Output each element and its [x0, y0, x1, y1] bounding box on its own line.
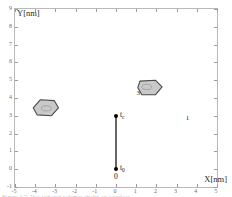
figure-caption: Figure 4.7: Two tethered polymer chains …: [2, 194, 130, 197]
shape-label-1: 1: [186, 115, 190, 122]
x-axis-tick-label: 1: [134, 188, 137, 194]
polymer-shape-3[interactable]: [138, 80, 162, 95]
plot-frame: 13tct00: [14, 8, 218, 188]
y-axis-tick-label: 2: [1, 130, 12, 136]
x-axis-tick-label: 2: [154, 188, 157, 194]
y-axis-tick-label: 0: [1, 165, 12, 171]
x-axis-tick-label: 4: [194, 188, 197, 194]
tether-node-t_c[interactable]: [114, 114, 118, 118]
y-axis-tick-label: -1: [1, 183, 12, 189]
x-axis-tick-label: -3: [52, 188, 57, 194]
y-axis-title: Y[nm]: [17, 9, 40, 18]
x-axis-tick-label: 0: [114, 188, 117, 194]
y-axis-tick-label: 4: [1, 94, 12, 100]
x-axis-tick-label: -2: [72, 188, 77, 194]
y-axis-tick-label: 5: [1, 76, 12, 82]
y-axis-tick-label: 7: [1, 41, 12, 47]
x-axis-tick-label: -4: [32, 188, 37, 194]
x-axis-title: X[nm]: [204, 175, 227, 184]
origin-label: 0: [114, 173, 118, 181]
y-axis-tick-label: 8: [1, 23, 12, 29]
x-axis-tick-label: 3: [174, 188, 177, 194]
x-axis-tick: [217, 9, 218, 12]
polymer-shape-1[interactable]: [33, 100, 58, 116]
y-axis-tick-label: 6: [1, 58, 12, 64]
y-axis-tick-label: 3: [1, 112, 12, 118]
y-axis-tick-label: 1: [1, 147, 12, 153]
shapes-layer: [15, 9, 217, 187]
x-axis-tick-label: -1: [92, 188, 97, 194]
x-axis-tick: [217, 184, 218, 187]
tether-node-t_0[interactable]: [114, 167, 118, 171]
tether-node-label-t_0: t0: [120, 164, 125, 172]
y-axis-tick-label: 9: [1, 5, 12, 11]
x-axis-tick-label: -5: [12, 188, 17, 194]
tether-node-label-t_c: tc: [120, 111, 125, 119]
shape-label-3: 3: [137, 90, 141, 97]
figure-container: 13tct00 Y[nm] X[nm] Figure 4.7: Two teth…: [0, 0, 232, 197]
x-axis-tick-label: 5: [215, 188, 218, 194]
